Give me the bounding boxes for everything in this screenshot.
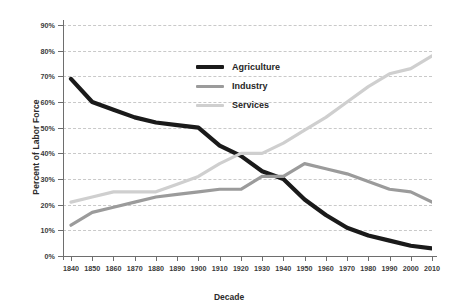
x-tick-mark-2010: [432, 256, 433, 261]
y-tick-label-30: 30%: [41, 175, 55, 184]
plot-area: [63, 25, 432, 256]
y-tick-mark-50: [58, 128, 63, 129]
x-tick-mark-1980: [368, 256, 369, 261]
legend-item-services[interactable]: Services: [196, 100, 280, 110]
x-tick-mark-1920: [241, 256, 242, 261]
x-tick-label-1880: 1880: [148, 264, 164, 273]
x-tick-mark-1900: [198, 256, 199, 261]
x-tick-label-1900: 1900: [190, 264, 206, 273]
x-tick-label-2010: 2010: [424, 264, 440, 273]
x-tick-label-1910: 1910: [212, 264, 228, 273]
legend-label-services: Services: [232, 100, 269, 110]
y-tick-label-60: 60%: [41, 98, 55, 107]
legend-item-agriculture[interactable]: Agriculture: [196, 62, 280, 72]
y-tick-label-40: 40%: [41, 149, 55, 158]
labor-force-line-chart: Percent of Labor Force 0%10%20%30%40%50%…: [0, 0, 458, 304]
x-tick-label-1980: 1980: [360, 264, 376, 273]
series-line-industry: [71, 164, 432, 226]
x-tick-mark-1990: [390, 256, 391, 261]
y-tick-label-90: 90%: [41, 21, 55, 30]
x-axis-title: Decade: [0, 292, 458, 302]
x-tick-mark-1840: [71, 256, 72, 261]
x-tick-mark-1940: [283, 256, 284, 261]
legend-label-industry: Industry: [232, 81, 268, 91]
x-tick-label-1890: 1890: [169, 264, 185, 273]
x-tick-label-1860: 1860: [105, 264, 121, 273]
y-tick-label-20: 20%: [41, 200, 55, 209]
y-tick-mark-0: [58, 256, 63, 257]
legend-swatch-services: [196, 104, 224, 107]
y-tick-mark-80: [58, 51, 63, 52]
y-tick-label-50: 50%: [41, 123, 55, 132]
x-tick-mark-1870: [135, 256, 136, 261]
x-tick-label-1960: 1960: [318, 264, 334, 273]
y-tick-mark-90: [58, 25, 63, 26]
x-tick-label-1970: 1970: [339, 264, 355, 273]
y-tick-mark-70: [58, 76, 63, 77]
x-tick-mark-1930: [262, 256, 263, 261]
x-tick-mark-1880: [156, 256, 157, 261]
x-tick-label-1950: 1950: [297, 264, 313, 273]
x-tick-label-1990: 1990: [382, 264, 398, 273]
x-tick-label-1870: 1870: [127, 264, 143, 273]
legend-label-agriculture: Agriculture: [232, 62, 280, 72]
x-tick-mark-1860: [113, 256, 114, 261]
y-tick-mark-60: [58, 102, 63, 103]
chart-legend: AgricultureIndustryServices: [196, 62, 280, 110]
x-tick-label-1850: 1850: [84, 264, 100, 273]
x-tick-mark-1970: [347, 256, 348, 261]
x-tick-mark-2000: [411, 256, 412, 261]
legend-swatch-agriculture: [196, 65, 224, 69]
y-tick-label-0: 0%: [45, 252, 55, 261]
x-tick-mark-1960: [326, 256, 327, 261]
x-tick-mark-1890: [177, 256, 178, 261]
x-tick-mark-1950: [305, 256, 306, 261]
x-tick-label-1920: 1920: [233, 264, 249, 273]
y-axis-line: [63, 20, 64, 260]
series-lines: [63, 25, 432, 256]
x-tick-label-1940: 1940: [275, 264, 291, 273]
x-axis-line: [58, 256, 437, 257]
y-tick-label-70: 70%: [41, 72, 55, 81]
x-tick-label-2000: 2000: [403, 264, 419, 273]
y-axis-title: Percent of Labor Force: [31, 67, 41, 227]
x-tick-label-1840: 1840: [63, 264, 79, 273]
y-tick-mark-30: [58, 179, 63, 180]
legend-item-industry[interactable]: Industry: [196, 81, 280, 91]
legend-swatch-industry: [196, 85, 224, 88]
y-tick-label-10: 10%: [41, 226, 55, 235]
x-tick-label-1930: 1930: [254, 264, 270, 273]
y-tick-label-80: 80%: [41, 46, 55, 55]
y-tick-mark-10: [58, 230, 63, 231]
y-tick-mark-20: [58, 205, 63, 206]
x-tick-mark-1910: [220, 256, 221, 261]
x-tick-mark-1850: [92, 256, 93, 261]
y-tick-mark-40: [58, 153, 63, 154]
